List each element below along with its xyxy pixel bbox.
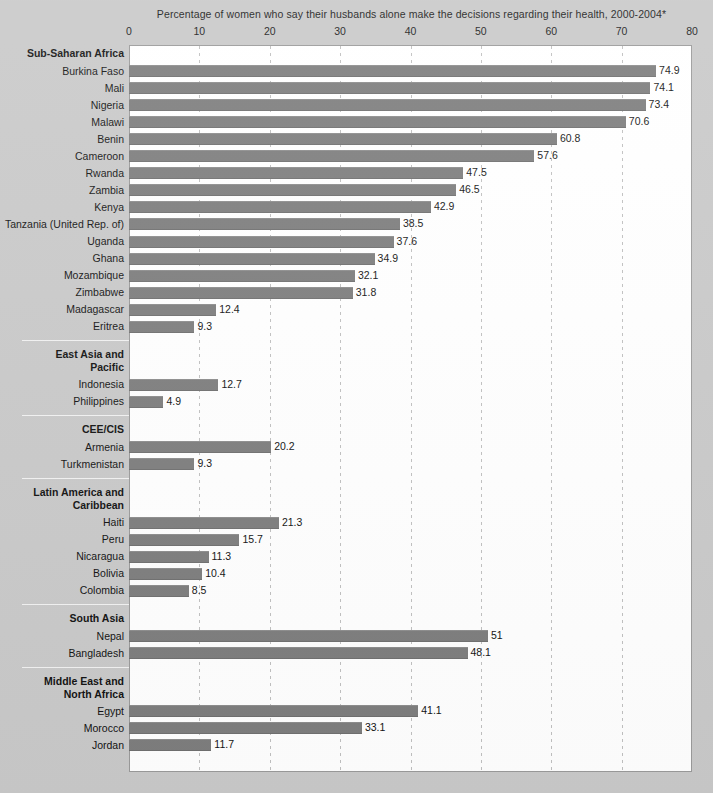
bar-value-label: 12.7 [221, 378, 241, 390]
bar-row: Eritrea [0, 318, 713, 335]
bar [129, 517, 279, 529]
bar [129, 534, 239, 546]
bar-row: Philippines [0, 393, 713, 410]
category-label: Kenya [0, 201, 129, 214]
bar-value-label: 46.5 [459, 183, 479, 195]
category-label: Morocco [0, 722, 129, 735]
chart-title: Percentage of women who say their husban… [129, 8, 694, 20]
bar [129, 630, 488, 642]
category-label: Indonesia [0, 378, 129, 391]
bar-row: Madagascar [0, 301, 713, 318]
category-label: Mali [0, 82, 129, 95]
bar [129, 133, 557, 145]
category-label: Nepal [0, 630, 129, 643]
bar-value-label: 11.7 [214, 738, 234, 750]
group-separator [22, 415, 129, 416]
group-label: Middle East andNorth Africa [0, 675, 129, 701]
group-label: South Asia [0, 612, 129, 625]
bar-value-label: 51 [491, 629, 503, 641]
bar [129, 396, 163, 408]
group-label: Sub-Saharan Africa [0, 47, 129, 60]
x-tick-label-40: 40 [405, 25, 417, 37]
bar [129, 551, 209, 563]
group-header-row: East Asia andPacific [0, 346, 713, 376]
bar-value-label: 32.1 [358, 269, 378, 281]
bar [129, 379, 218, 391]
bar [129, 441, 271, 453]
category-label: Bolivia [0, 567, 129, 580]
group-header-row: Middle East andNorth Africa [0, 673, 713, 703]
bar-value-label: 38.5 [403, 217, 423, 229]
category-label: Ghana [0, 252, 129, 265]
category-label: Eritrea [0, 320, 129, 333]
category-label: Benin [0, 133, 129, 146]
category-label: Rwanda [0, 167, 129, 180]
bar-row: Peru [0, 531, 713, 548]
bar [129, 321, 194, 333]
bar-value-label: 47.5 [466, 166, 486, 178]
bar [129, 647, 468, 659]
bar-value-label: 42.9 [434, 200, 454, 212]
category-label: Mozambique [0, 269, 129, 282]
category-label: Jordan [0, 739, 129, 752]
bar-value-label: 74.1 [653, 81, 673, 93]
group-separator [22, 667, 129, 668]
bar [129, 739, 211, 751]
bar [129, 253, 375, 265]
bar [129, 287, 353, 299]
group-separator [22, 478, 129, 479]
group-label-line: Pacific [0, 361, 124, 374]
bar [129, 270, 355, 282]
bar-value-label: 70.6 [629, 115, 649, 127]
bar-row: Armenia [0, 439, 713, 456]
x-tick-label-30: 30 [334, 25, 346, 37]
bar-value-label: 31.8 [356, 286, 376, 298]
bar-value-label: 73.4 [649, 98, 669, 110]
x-tick-label-0: 0 [126, 25, 132, 37]
x-tick-label-60: 60 [545, 25, 557, 37]
bar [129, 218, 400, 230]
group-header-row: CEE/CIS [0, 421, 713, 439]
category-label: Colombia [0, 584, 129, 597]
group-label-line: East Asia and [0, 348, 124, 361]
x-tick-label-20: 20 [264, 25, 276, 37]
bar [129, 184, 456, 196]
group-separator [22, 604, 129, 605]
bar [129, 458, 194, 470]
bar [129, 304, 216, 316]
group-header-row: South Asia [0, 610, 713, 628]
category-label: Egypt [0, 705, 129, 718]
bar [129, 585, 189, 597]
bar [129, 65, 656, 77]
category-label: Zimbabwe [0, 286, 129, 299]
chart-page: Percentage of women who say their husban… [0, 0, 713, 793]
bar [129, 150, 534, 162]
group-label: Latin America andCaribbean [0, 486, 129, 512]
category-label: Zambia [0, 184, 129, 197]
category-label: Haiti [0, 516, 129, 529]
group-label-line: North Africa [0, 688, 124, 701]
bar-row: Haiti [0, 514, 713, 531]
category-label: Nigeria [0, 99, 129, 112]
group-label: CEE/CIS [0, 423, 129, 436]
category-label: Peru [0, 533, 129, 546]
bar-row: Turkmenistan [0, 456, 713, 473]
group-header-row: Sub-Saharan Africa [0, 45, 713, 63]
category-label: Armenia [0, 441, 129, 454]
group-label-line: South Asia [0, 612, 124, 625]
group-label: East Asia andPacific [0, 348, 129, 374]
category-label: Uganda [0, 235, 129, 248]
bar-value-label: 21.3 [282, 516, 302, 528]
bar-value-label: 10.4 [205, 567, 225, 579]
bar-value-label: 4.9 [166, 395, 181, 407]
group-label-line: Latin America and [0, 486, 124, 499]
bar-row: Indonesia [0, 376, 713, 393]
bar-row: Jordan [0, 737, 713, 754]
bar [129, 201, 431, 213]
bar-value-label: 11.3 [212, 550, 232, 562]
bar [129, 116, 626, 128]
x-axis-tick-labels: 01020304050607080 [0, 25, 713, 41]
bar-value-label: 48.1 [471, 646, 491, 658]
bar [129, 705, 418, 717]
x-tick-label-50: 50 [475, 25, 487, 37]
